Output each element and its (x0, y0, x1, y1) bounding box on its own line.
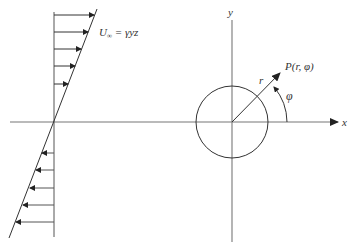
velocity-profile-line (9, 9, 97, 238)
velocity-arrows-positive (54, 15, 94, 84)
y-axis-label: y (227, 6, 233, 18)
point-label: P(r, φ) (284, 60, 314, 73)
radius-label: r (259, 74, 264, 86)
velocity-arrows-negative (16, 153, 54, 222)
x-axis-label: x (341, 116, 347, 128)
shear-label: U∞ = γyz (99, 26, 139, 40)
shear-flow-cylinder-diagram: U∞ = γyz y x P(r, φ) r φ (0, 0, 353, 251)
radius-vector (232, 73, 280, 122)
angle-label: φ (286, 89, 293, 103)
